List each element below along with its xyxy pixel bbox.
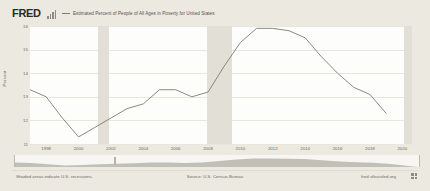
legend-color-swatch <box>62 13 70 15</box>
site-link[interactable]: fred.stlouisfed.org <box>361 174 396 179</box>
y-tick-label: 16 <box>12 24 28 29</box>
range-handle-icon[interactable] <box>114 157 116 165</box>
chart-plot-area[interactable]: Percent 111213141516 1998200020022004200… <box>0 24 430 152</box>
y-tick-label: 15 <box>12 47 28 52</box>
x-tick-label: 2006 <box>171 146 181 151</box>
x-tick-label: 2020 <box>397 146 407 151</box>
fred-logo[interactable]: FRED <box>12 8 41 19</box>
x-tick-label: 2010 <box>236 146 246 151</box>
chart-legend[interactable]: Estimated Percent of People of All Ages … <box>62 11 215 16</box>
x-tick-label: 2016 <box>333 146 343 151</box>
x-tick-label: 2014 <box>300 146 310 151</box>
recession-note: Shaded areas indicate U.S. recessions. <box>16 174 93 179</box>
y-tick-label: 13 <box>12 94 28 99</box>
series-line <box>30 26 412 144</box>
x-tick-label: 2008 <box>203 146 213 151</box>
chart-header: FRED Estimated Percent of People of All … <box>0 0 430 26</box>
x-tick-label: 2018 <box>365 146 375 151</box>
y-tick-label: 14 <box>12 71 28 76</box>
grid-line <box>30 144 412 145</box>
y-tick-label: 12 <box>12 118 28 123</box>
footer-divider <box>12 170 418 171</box>
x-tick-label: 2002 <box>106 146 116 151</box>
chart-footer: Shaded areas indicate U.S. recessions. S… <box>0 170 430 191</box>
x-tick-label: 2004 <box>138 146 148 151</box>
range-selector[interactable] <box>0 152 430 170</box>
fred-chart-page: FRED Estimated Percent of People of All … <box>0 0 430 191</box>
x-tick-label: 1998 <box>41 146 51 151</box>
fred-squares-icon[interactable] <box>411 173 418 180</box>
range-preview-series <box>14 155 418 167</box>
y-axis-ticks: 111213141516 <box>8 24 28 146</box>
x-tick-label: 2012 <box>268 146 278 151</box>
y-tick-label: 11 <box>12 142 28 147</box>
legend-series-label: Estimated Percent of People of All Ages … <box>73 11 215 16</box>
bar-chart-icon <box>47 10 57 19</box>
y-axis-label: Percent <box>2 59 7 99</box>
x-tick-label: 2000 <box>74 146 84 151</box>
source-note: Source: U.S. Census Bureau <box>187 174 243 179</box>
